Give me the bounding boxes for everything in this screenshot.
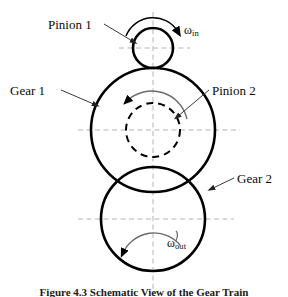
omega-out-subscript: out xyxy=(175,241,186,251)
label-gear-1: Gear 1 xyxy=(10,84,45,97)
figure-caption: Figure 4.3 Schematic View of the Gear Tr… xyxy=(0,286,288,297)
leader-pinion-1 xyxy=(104,24,134,42)
centerlines xyxy=(78,12,240,296)
gear-1-circle xyxy=(91,68,215,192)
omega-in-symbol: ω xyxy=(184,23,192,37)
leader-lines xyxy=(61,24,234,189)
leader-gear-2 xyxy=(211,178,234,189)
omega-in-subscript: in xyxy=(192,28,199,38)
pinion-2-rotation-arrow xyxy=(127,91,187,119)
gear-train-figure: Pinion 1 Gear 1 Pinion 2 Gear 2 ωin ωout… xyxy=(0,0,288,297)
leader-gear-1 xyxy=(61,90,96,105)
leader-pinion-2 xyxy=(177,90,209,117)
label-pinion-1: Pinion 1 xyxy=(48,18,92,31)
gear-train-diagram xyxy=(0,0,288,297)
label-omega-out: ωout xyxy=(167,237,186,249)
omega-out-symbol: ω xyxy=(167,236,175,250)
label-omega-in: ωin xyxy=(184,24,199,36)
label-pinion-2: Pinion 2 xyxy=(212,84,256,97)
label-gear-2: Gear 2 xyxy=(237,172,272,185)
